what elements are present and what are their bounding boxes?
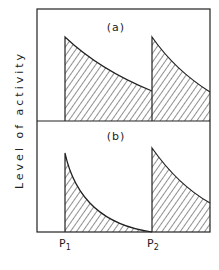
panel-a-label: (a) xyxy=(107,21,125,34)
panel-b-area-1 xyxy=(65,153,152,232)
tick-p2: P2 xyxy=(147,237,159,252)
panel-b xyxy=(65,148,210,232)
y-axis-label: Level of activity xyxy=(13,51,26,189)
panel-a-area-1 xyxy=(65,37,152,121)
panel-b-label: (b) xyxy=(107,130,126,143)
panel-a xyxy=(65,37,210,121)
panel-b-area-2 xyxy=(152,148,210,232)
tick-p1: P1 xyxy=(59,237,71,252)
panel-a-area-2 xyxy=(152,37,210,121)
activity-diagram: (a) (b) P1 P2 xyxy=(0,0,219,270)
